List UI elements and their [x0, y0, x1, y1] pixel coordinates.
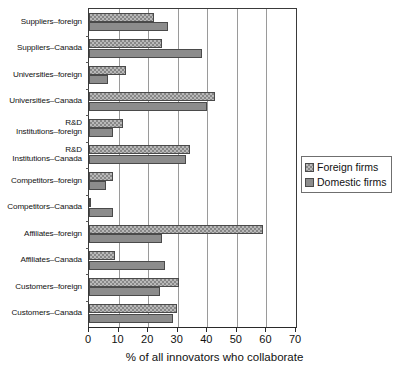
legend: Foreign firms Domestic firms — [301, 156, 392, 193]
y-tick-mark — [86, 195, 89, 196]
y-tick-mark — [86, 115, 89, 116]
y-tick-mark — [86, 62, 89, 63]
y-axis-label: Competitors–foreign — [0, 176, 82, 185]
legend-item-foreign-firms: Foreign firms — [305, 160, 386, 174]
legend-swatch-domestic-icon — [305, 178, 314, 187]
bar-foreign-firms — [89, 304, 177, 313]
y-axis-label: Competitors–Canada — [0, 202, 82, 211]
x-tick-label: 20 — [132, 333, 162, 345]
bar-domestic-firms — [89, 208, 113, 217]
gridline — [237, 9, 238, 327]
bar-foreign-firms — [89, 251, 115, 260]
y-axis-label: Suppliers–Canada — [0, 43, 82, 52]
y-tick-mark — [86, 221, 89, 222]
x-axis-title: % of all innovators who collaborate — [0, 351, 409, 363]
bar-foreign-firms — [89, 172, 113, 181]
y-tick-mark — [86, 274, 89, 275]
bar-domestic-firms — [89, 155, 186, 164]
x-tick-mark — [147, 327, 148, 332]
bar-foreign-firms — [89, 92, 215, 101]
bar-foreign-firms — [89, 145, 190, 154]
x-tick-mark — [206, 327, 207, 332]
y-axis-label: Customers–Canada — [0, 308, 82, 317]
bar-domestic-firms — [89, 49, 202, 58]
x-tick-label: 40 — [191, 333, 221, 345]
horizontal-bar-chart: Suppliers–foreignSuppliers–CanadaUnivers… — [0, 0, 409, 381]
bar-foreign-firms — [89, 13, 154, 22]
y-axis-label: Universities–foreign — [0, 70, 82, 79]
x-tick-label: 70 — [280, 333, 310, 345]
bar-domestic-firms — [89, 287, 160, 296]
y-axis-label: R&D Institutions–Canada — [0, 145, 82, 163]
y-tick-mark — [86, 301, 89, 302]
bar-domestic-firms — [89, 261, 165, 270]
y-axis-label: Affiliates–Canada — [0, 255, 82, 264]
bar-foreign-firms — [89, 39, 162, 48]
y-axis-label: Customers–foreign — [0, 282, 82, 291]
bar-foreign-firms — [89, 66, 126, 75]
bar-domestic-firms — [89, 22, 168, 31]
legend-item-domestic-firms: Domestic firms — [305, 175, 386, 189]
bar-foreign-firms — [89, 119, 123, 128]
x-tick-label: 50 — [221, 333, 251, 345]
x-axis-title-text: % of all innovators who collaborate — [126, 351, 304, 363]
bar-domestic-firms — [89, 102, 207, 111]
x-tick-mark — [177, 327, 178, 332]
y-axis-label: Universities–Canada — [0, 96, 82, 105]
bar-foreign-firms — [89, 225, 263, 234]
x-tick-mark — [265, 327, 266, 332]
bar-foreign-firms — [89, 278, 179, 287]
bar-domestic-firms — [89, 314, 173, 323]
x-axis-tick-labels: 010203040506070 — [0, 333, 409, 347]
gridline — [207, 9, 208, 327]
y-axis-label: Suppliers–foreign — [0, 17, 82, 26]
bar-domestic-firms — [89, 181, 106, 190]
y-tick-mark — [86, 168, 89, 169]
x-tick-label: 60 — [250, 333, 280, 345]
bar-domestic-firms — [89, 75, 108, 84]
legend-swatch-foreign-icon — [305, 163, 314, 172]
bar-domestic-firms — [89, 128, 113, 137]
y-tick-mark — [86, 36, 89, 37]
legend-label-foreign: Foreign firms — [317, 161, 378, 173]
x-tick-mark — [295, 327, 296, 332]
x-tick-mark — [236, 327, 237, 332]
x-tick-mark — [118, 327, 119, 332]
x-tick-label: 10 — [103, 333, 133, 345]
y-axis-label: R&D Institutions–foreign — [0, 118, 82, 136]
x-tick-mark — [88, 327, 89, 332]
gridline — [266, 9, 267, 327]
bar-domestic-firms — [89, 234, 162, 243]
y-tick-mark — [86, 142, 89, 143]
x-tick-label: 0 — [73, 333, 103, 345]
y-tick-mark — [86, 89, 89, 90]
plot-area — [88, 8, 297, 328]
bar-foreign-firms — [89, 198, 91, 207]
y-tick-mark — [86, 248, 89, 249]
legend-label-domestic: Domestic firms — [317, 176, 386, 188]
x-tick-label: 30 — [162, 333, 192, 345]
y-axis-category-labels: Suppliers–foreignSuppliers–CanadaUnivers… — [0, 8, 86, 326]
y-axis-label: Affiliates–foreign — [0, 229, 82, 238]
